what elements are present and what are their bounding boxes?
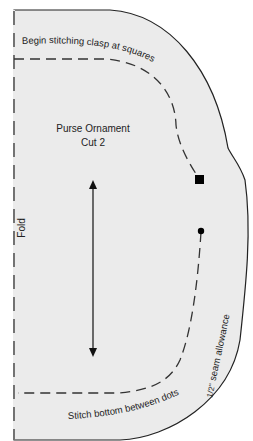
- fold-label: Fold: [16, 218, 27, 237]
- pattern-piece: Purse Ornament Cut 2 Fold Begin stitchin…: [0, 0, 253, 441]
- pattern-cut-count: Cut 2: [81, 137, 105, 148]
- seam-fraction: 1/2": [205, 383, 217, 399]
- dot-marker: [198, 228, 204, 234]
- pattern-title: Purse Ornament: [56, 123, 130, 134]
- square-marker: [195, 175, 204, 184]
